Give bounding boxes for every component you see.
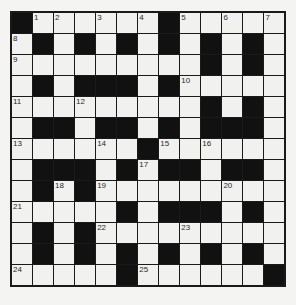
answer-cell[interactable] — [159, 97, 179, 117]
answer-cell[interactable] — [75, 118, 95, 138]
answer-cell[interactable] — [264, 244, 284, 264]
answer-cell[interactable] — [243, 181, 263, 201]
answer-cell[interactable] — [264, 223, 284, 243]
answer-cell[interactable] — [54, 223, 74, 243]
answer-cell[interactable] — [222, 223, 242, 243]
answer-cell[interactable] — [75, 265, 95, 285]
answer-cell[interactable] — [54, 55, 74, 75]
answer-cell[interactable]: 1 — [33, 13, 53, 33]
answer-cell[interactable] — [54, 244, 74, 264]
answer-cell[interactable] — [201, 223, 221, 243]
answer-cell[interactable] — [222, 202, 242, 222]
answer-cell[interactable] — [96, 34, 116, 54]
answer-cell[interactable] — [138, 223, 158, 243]
answer-cell[interactable] — [201, 181, 221, 201]
answer-cell[interactable]: 10 — [180, 76, 200, 96]
answer-cell[interactable] — [138, 55, 158, 75]
answer-cell[interactable] — [33, 265, 53, 285]
answer-cell[interactable] — [138, 34, 158, 54]
answer-cell[interactable]: 18 — [54, 181, 74, 201]
answer-cell[interactable] — [96, 202, 116, 222]
answer-cell[interactable] — [201, 265, 221, 285]
answer-cell[interactable] — [96, 265, 116, 285]
answer-cell[interactable] — [180, 34, 200, 54]
answer-cell[interactable] — [243, 139, 263, 159]
answer-cell[interactable] — [54, 202, 74, 222]
answer-cell[interactable] — [12, 76, 32, 96]
answer-cell[interactable] — [117, 139, 137, 159]
answer-cell[interactable] — [222, 97, 242, 117]
answer-cell[interactable] — [264, 97, 284, 117]
answer-cell[interactable]: 13 — [12, 139, 32, 159]
answer-cell[interactable]: 15 — [159, 139, 179, 159]
answer-cell[interactable]: 22 — [96, 223, 116, 243]
answer-cell[interactable] — [243, 13, 263, 33]
answer-cell[interactable] — [75, 139, 95, 159]
answer-cell[interactable] — [243, 76, 263, 96]
answer-cell[interactable]: 21 — [12, 202, 32, 222]
answer-cell[interactable]: 6 — [222, 13, 242, 33]
answer-cell[interactable]: 7 — [264, 13, 284, 33]
answer-cell[interactable]: 8 — [12, 34, 32, 54]
answer-cell[interactable] — [180, 139, 200, 159]
answer-cell[interactable] — [54, 76, 74, 96]
answer-cell[interactable] — [138, 181, 158, 201]
answer-cell[interactable] — [222, 244, 242, 264]
answer-cell[interactable] — [264, 55, 284, 75]
answer-cell[interactable] — [117, 55, 137, 75]
answer-cell[interactable] — [117, 13, 137, 33]
answer-cell[interactable] — [180, 244, 200, 264]
answer-cell[interactable] — [159, 181, 179, 201]
answer-cell[interactable]: 16 — [201, 139, 221, 159]
answer-cell[interactable] — [264, 76, 284, 96]
answer-cell[interactable]: 25 — [138, 265, 158, 285]
answer-cell[interactable] — [243, 265, 263, 285]
answer-cell[interactable] — [12, 181, 32, 201]
answer-cell[interactable] — [33, 55, 53, 75]
answer-cell[interactable] — [54, 97, 74, 117]
answer-cell[interactable] — [222, 139, 242, 159]
answer-cell[interactable] — [243, 223, 263, 243]
answer-cell[interactable]: 5 — [180, 13, 200, 33]
answer-cell[interactable] — [12, 244, 32, 264]
answer-cell[interactable] — [75, 202, 95, 222]
answer-cell[interactable]: 17 — [138, 160, 158, 180]
answer-cell[interactable] — [96, 97, 116, 117]
answer-cell[interactable] — [117, 223, 137, 243]
answer-cell[interactable] — [117, 181, 137, 201]
answer-cell[interactable] — [222, 34, 242, 54]
answer-cell[interactable] — [159, 223, 179, 243]
answer-cell[interactable] — [12, 160, 32, 180]
answer-cell[interactable] — [75, 13, 95, 33]
answer-cell[interactable] — [138, 76, 158, 96]
answer-cell[interactable]: 9 — [12, 55, 32, 75]
answer-cell[interactable] — [138, 97, 158, 117]
answer-cell[interactable] — [54, 139, 74, 159]
answer-cell[interactable] — [222, 76, 242, 96]
answer-cell[interactable] — [180, 55, 200, 75]
answer-cell[interactable] — [12, 223, 32, 243]
answer-cell[interactable] — [180, 97, 200, 117]
answer-cell[interactable] — [96, 244, 116, 264]
answer-cell[interactable]: 24 — [12, 265, 32, 285]
answer-cell[interactable] — [159, 55, 179, 75]
answer-cell[interactable] — [264, 202, 284, 222]
answer-cell[interactable] — [180, 265, 200, 285]
answer-cell[interactable] — [201, 13, 221, 33]
answer-cell[interactable]: 19 — [96, 181, 116, 201]
answer-cell[interactable] — [138, 202, 158, 222]
answer-cell[interactable] — [222, 55, 242, 75]
answer-cell[interactable] — [96, 160, 116, 180]
answer-cell[interactable] — [12, 118, 32, 138]
answer-cell[interactable] — [201, 160, 221, 180]
answer-cell[interactable]: 14 — [96, 139, 116, 159]
answer-cell[interactable] — [201, 76, 221, 96]
answer-cell[interactable] — [264, 139, 284, 159]
answer-cell[interactable] — [264, 181, 284, 201]
answer-cell[interactable] — [180, 118, 200, 138]
answer-cell[interactable] — [33, 202, 53, 222]
answer-cell[interactable]: 3 — [96, 13, 116, 33]
answer-cell[interactable]: 11 — [12, 97, 32, 117]
answer-cell[interactable] — [54, 265, 74, 285]
answer-cell[interactable] — [159, 265, 179, 285]
